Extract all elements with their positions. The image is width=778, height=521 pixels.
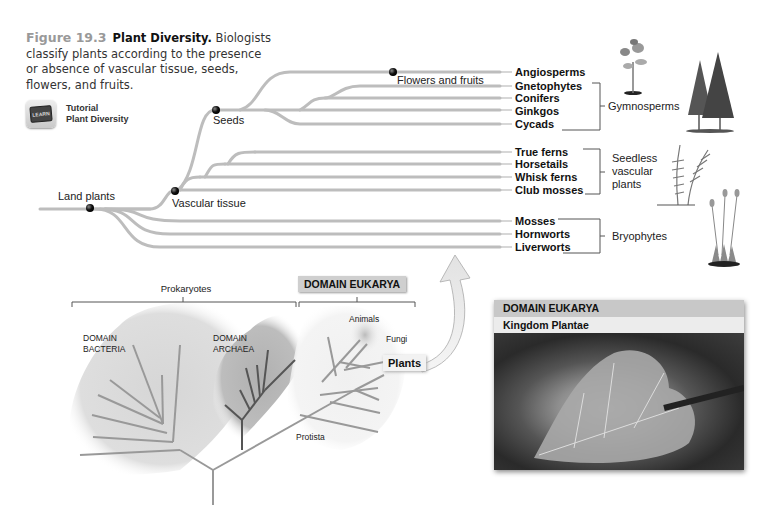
- label-bacteria-line1: DOMAIN: [83, 333, 117, 343]
- taxon-cycads: Cycads: [515, 118, 554, 130]
- fern-illustration: [657, 145, 710, 205]
- group-seedless-line3: plants: [612, 178, 642, 190]
- group-seedless-line1: Seedless: [612, 152, 658, 164]
- branch-ferns-stem: [205, 164, 225, 177]
- group-seedless-line2: vascular: [612, 165, 653, 177]
- plantae-photo-panel: DOMAIN EUKARYA Kingdom Plantae: [494, 300, 744, 470]
- taxon-connectors: [500, 72, 512, 247]
- branch-vascular-stem: [105, 190, 175, 209]
- node-land-plants: [86, 204, 94, 212]
- plant-phylogeny: [40, 72, 500, 247]
- group-bryophytes: Bryophytes: [612, 230, 668, 242]
- label-seeds: Seeds: [213, 114, 245, 126]
- label-animals: Animals: [349, 314, 379, 324]
- taxon-hornworts: Hornworts: [515, 228, 570, 240]
- label-archaea-line1: DOMAIN: [213, 333, 247, 343]
- branch-mosses: [105, 209, 500, 221]
- label-protista: Protista: [296, 432, 325, 442]
- bracket-seedless: [583, 149, 605, 194]
- plants-tag: Plants: [383, 355, 426, 371]
- label-vascular-tissue: Vascular tissue: [172, 197, 246, 209]
- label-prokaryotes: Prokaryotes: [161, 283, 212, 294]
- node-vascular-tissue: [171, 187, 179, 195]
- taxon-ginkgos: Ginkgos: [515, 105, 559, 117]
- node-seeds: [212, 106, 220, 114]
- blob-eukarya: [287, 306, 405, 450]
- label-archaea-line2: ARCHAEA: [213, 344, 254, 354]
- label-flowers-fruits: Flowers and fruits: [397, 74, 484, 86]
- taxa-list: Angiosperms Gnetophytes Conifers Ginkgos…: [515, 66, 585, 253]
- taxon-liverworts: Liverworts: [515, 241, 571, 253]
- taxon-whisk-ferns: Whisk ferns: [515, 171, 577, 183]
- photo-header-domain: DOMAIN EUKARYA: [494, 300, 744, 317]
- taxon-gnetophytes: Gnetophytes: [515, 80, 582, 92]
- domain-brackets: [72, 297, 415, 307]
- taxon-true-ferns: True ferns: [515, 146, 568, 158]
- label-fungi: Fungi: [386, 334, 407, 344]
- taxon-mosses: Mosses: [515, 215, 555, 227]
- conifer-illustration: [686, 52, 734, 133]
- group-gymnosperms: Gymnosperms: [608, 100, 680, 112]
- label-bacteria-line2: BACTERIA: [83, 344, 126, 354]
- bracket-eukarya: [299, 297, 415, 307]
- taxon-conifers: Conifers: [515, 92, 560, 104]
- branch-conifers-stem: [300, 98, 500, 110]
- taxon-horsetails: Horsetails: [515, 158, 568, 170]
- moss-illustration: [708, 189, 740, 267]
- branch-cycads-stem: [215, 110, 500, 124]
- taxon-angiosperms: Angiosperms: [515, 66, 585, 78]
- branch-true-ferns-stem: [228, 152, 255, 164]
- arrow-to-plants: [420, 255, 470, 372]
- branch-liverworts: [95, 209, 500, 247]
- taxon-club-mosses: Club mosses: [515, 184, 583, 196]
- node-flowers-fruits: [389, 68, 397, 76]
- leaf-illustration: [494, 333, 744, 470]
- photo-header-kingdom: Kingdom Plantae: [494, 317, 744, 333]
- branch-gneto: [325, 86, 500, 98]
- label-land-plants: Land plants: [58, 190, 115, 202]
- leaf-photo: [494, 333, 744, 470]
- angiosperm-illustration: [620, 39, 647, 95]
- domain-eukarya-tag: DOMAIN EUKARYA: [298, 276, 406, 292]
